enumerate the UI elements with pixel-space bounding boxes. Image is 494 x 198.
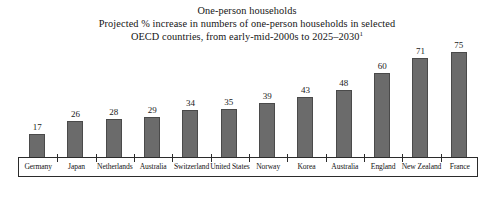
- category-label: Netherlands: [97, 162, 133, 171]
- bar: [182, 110, 198, 158]
- category-tick: [172, 154, 173, 162]
- category-tick: [441, 154, 442, 162]
- bar-group: 43: [286, 48, 324, 158]
- bar-value-label: 28: [95, 107, 133, 117]
- bar-group: 17: [18, 48, 56, 158]
- category-label-cell: Japan: [57, 158, 95, 175]
- footnote-marker: 1: [359, 30, 363, 38]
- category-label: Korea: [297, 162, 315, 171]
- category-label: Japan: [68, 162, 85, 171]
- bar: [67, 121, 83, 158]
- bar: [374, 73, 390, 158]
- bar: [106, 119, 122, 158]
- category-label: United States: [210, 162, 249, 171]
- category-tick: [249, 154, 250, 162]
- category-label: England: [371, 162, 396, 171]
- bar: [144, 117, 160, 158]
- plot-area: 172628293435394348607175: [18, 48, 478, 158]
- category-tick: [211, 154, 212, 162]
- bar-group: 48: [325, 48, 363, 158]
- chart-title-line-3-text: OECD countries, from early-mid-2000s to …: [131, 31, 360, 42]
- category-label-cell: Australia: [326, 158, 364, 175]
- bar: [451, 52, 467, 158]
- category-label-cell: Netherlands: [96, 158, 134, 175]
- category-tick: [364, 154, 365, 162]
- bar-value-label: 43: [286, 85, 324, 95]
- category-label-cell: United States: [211, 158, 249, 175]
- bar-value-label: 17: [18, 122, 56, 132]
- bar: [29, 134, 45, 158]
- category-label: Australia: [331, 162, 358, 171]
- chart-title-line-1: One-person households: [0, 4, 494, 17]
- bar-group: 29: [133, 48, 171, 158]
- category-label: Norway: [256, 162, 280, 171]
- bar: [259, 103, 275, 158]
- bar-group: 60: [363, 48, 401, 158]
- category-tick: [287, 154, 288, 162]
- bar-value-label: 60: [363, 61, 401, 71]
- bar: [297, 97, 313, 158]
- category-label: France: [450, 162, 470, 171]
- bar: [336, 90, 352, 158]
- bar-group: 35: [210, 48, 248, 158]
- category-label-cell: Switzerland: [172, 158, 210, 175]
- bar-value-label: 39: [248, 91, 286, 101]
- category-label-box: GermanyJapanNetherlandsAustraliaSwitzerl…: [18, 158, 478, 177]
- category-label-cell: France: [441, 158, 479, 175]
- bar-value-label: 34: [171, 98, 209, 108]
- bar-group: 71: [401, 48, 439, 158]
- chart-title-line-3: OECD countries, from early-mid-2000s to …: [0, 30, 494, 43]
- bar-value-label: 26: [56, 109, 94, 119]
- category-label: New Zealand: [402, 162, 442, 171]
- bar-group: 75: [440, 48, 478, 158]
- bar-value-label: 35: [210, 97, 248, 107]
- category-label-cell: New Zealand: [402, 158, 440, 175]
- bar: [412, 58, 428, 158]
- bar-group: 26: [56, 48, 94, 158]
- category-tick: [134, 154, 135, 162]
- category-tick: [57, 154, 58, 162]
- chart-figure: One-person households Projected % increa…: [0, 0, 494, 198]
- category-label-cell: Germany: [19, 158, 57, 175]
- category-label: Germany: [24, 162, 52, 171]
- bar-value-label: 29: [133, 105, 171, 115]
- chart-title-line-2: Projected % increase in numbers of one-p…: [0, 17, 494, 30]
- category-label-cell: Australia: [134, 158, 172, 175]
- category-label: Switzerland: [174, 162, 209, 171]
- category-label-cell: Korea: [287, 158, 325, 175]
- category-tick: [402, 154, 403, 162]
- bar-value-label: 71: [401, 46, 439, 56]
- bar-value-label: 75: [440, 40, 478, 50]
- bar: [221, 109, 237, 158]
- chart-title-block: One-person households Projected % increa…: [0, 4, 494, 44]
- category-label-cell: Norway: [249, 158, 287, 175]
- category-tick: [96, 154, 97, 162]
- bar-group: 28: [95, 48, 133, 158]
- bar-group: 39: [248, 48, 286, 158]
- bar-value-label: 48: [325, 78, 363, 88]
- bar-group: 34: [171, 48, 209, 158]
- category-label: Australia: [140, 162, 167, 171]
- category-label-cell: England: [364, 158, 402, 175]
- category-tick: [326, 154, 327, 162]
